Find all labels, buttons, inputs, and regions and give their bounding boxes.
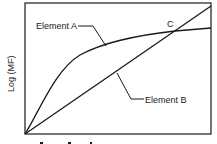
x-axis-label-cropped (40, 142, 92, 144)
element-a-label: Element A (36, 21, 77, 31)
element-b-label: Element B (145, 95, 187, 105)
point-c-label: C (167, 19, 174, 29)
chart: Element A Element B C Log (MF) (0, 0, 217, 144)
element-a-leader (78, 26, 106, 46)
element-b-leader (117, 73, 144, 99)
element-a-curve (25, 28, 211, 134)
y-axis-label: Log (MF) (6, 55, 16, 92)
